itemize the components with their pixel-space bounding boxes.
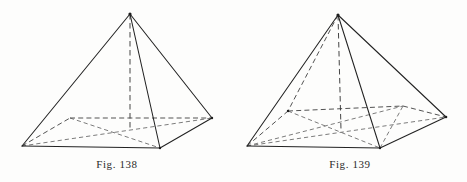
solid-edge-base-right (160, 118, 212, 148)
solid-edge-base-front (247, 146, 380, 148)
vertices-139 (287, 13, 448, 149)
vertices-138 (128, 12, 213, 149)
figure-139-block: Fig. 139 (233, 0, 467, 182)
solid-edge-apex-front-left (22, 14, 130, 146)
solid-edge-base-front (22, 146, 160, 148)
figure-139-caption: Fig. 139 (233, 158, 467, 170)
hidden-edge-front-left-to-back-left (22, 118, 70, 146)
vertex-front-right-139 (379, 147, 381, 149)
altitude-line-139 (338, 15, 341, 130)
solid-edge-apex-right-back (130, 14, 212, 118)
solid-edges-138 (22, 14, 212, 148)
hidden-diagonal-a (22, 118, 212, 146)
vertex-right-back-138 (211, 117, 213, 119)
vertex-right-139 (445, 116, 448, 119)
hidden-diagonal-d (380, 106, 403, 148)
vertex-apex-138 (128, 12, 131, 15)
hidden-diagonal-b (70, 118, 160, 148)
figure-page: Fig. 138 (0, 0, 467, 182)
pentagonal-pyramid-drawing (233, 0, 467, 158)
vertex-front-right-138 (159, 147, 161, 149)
figure-138-caption: Fig. 138 (0, 158, 234, 170)
vertex-apex-139 (336, 13, 339, 16)
hidden-edges-139 (247, 15, 446, 146)
hidden-edge-back (288, 106, 403, 111)
solid-edges-139 (247, 15, 446, 148)
hidden-diagonal-c (288, 111, 380, 148)
hidden-base-diagonals-138 (22, 118, 212, 148)
vertex-back-left-139 (287, 110, 289, 112)
square-pyramid-drawing (0, 0, 234, 158)
figure-138-block: Fig. 138 (0, 0, 234, 182)
hidden-lateral-edge-apex-back-left (288, 15, 338, 111)
hidden-base-diagonals-139 (247, 106, 446, 148)
